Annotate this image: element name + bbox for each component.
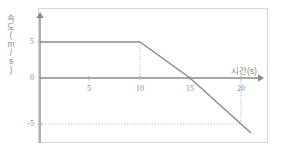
x-tick-label-5: 5	[87, 85, 91, 93]
y-tick-label-0: 0	[20, 74, 34, 82]
y-axis-arrow-icon	[36, 12, 43, 18]
x-tick-label-10: 10	[136, 85, 144, 93]
x-tick-label-20: 20	[237, 85, 245, 93]
plot-canvas	[0, 0, 283, 160]
y-tick-label-5: 5	[20, 38, 34, 46]
y-tick-label-neg5: -5	[18, 120, 34, 128]
y-axis-title: 속 도 ( m / s )	[4, 14, 18, 75]
x-tick-label-15: 15	[186, 85, 194, 93]
x-axis-arrow-icon	[258, 74, 264, 82]
velocity-curve	[40, 42, 251, 133]
x-axis-title: 시간(s)	[231, 64, 257, 76]
velocity-time-graph-figure: 속 도 ( m / s ) 시간(s) 5 10 15 20 5 0 -5	[0, 0, 283, 160]
